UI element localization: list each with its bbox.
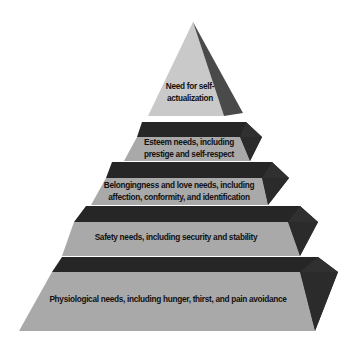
tier-label-line: Need for self-: [147, 80, 233, 92]
tier-belongingness-label: Belongingness and love needs, including …: [93, 179, 265, 203]
tier-physiological-label: Physiological needs, including hunger, t…: [30, 293, 305, 305]
tier-belongingness-top: [106, 162, 289, 178]
tier-label-line: Esteem needs, including: [136, 136, 243, 148]
tier-esteem-label: Esteem needs, including prestige and sel…: [136, 136, 243, 160]
tier-safety-top: [74, 206, 318, 222]
tier-physiological-top: [52, 257, 338, 272]
needs-pyramid-diagram: Need for self- actualization Esteem need…: [0, 0, 353, 344]
tier-label-line: Physiological needs, including hunger, t…: [30, 293, 305, 305]
tier-label-line: prestige and self-respect: [136, 148, 243, 160]
tier-label-line: Belongingness and love needs, including: [93, 179, 265, 191]
tier-label-line: Safety needs, including security and sta…: [73, 231, 279, 243]
tier-label-line: actualization: [147, 92, 233, 104]
tier-self-actualization-label: Need for self- actualization: [147, 80, 233, 104]
tier-safety-label: Safety needs, including security and sta…: [73, 231, 279, 243]
tier-label-line: affection, conformity, and identificatio…: [93, 191, 265, 203]
